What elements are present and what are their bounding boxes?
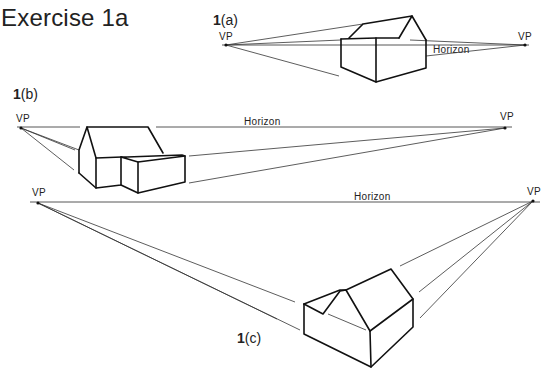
vp-point-right-1c (531, 199, 534, 202)
figure-1c-drawing (30, 199, 540, 367)
vp-point-left-1c (36, 201, 39, 204)
guide-line (21, 128, 74, 170)
guide-line (410, 40, 525, 45)
gable-edge (304, 290, 370, 331)
guide-line (419, 201, 533, 292)
guide-line (400, 201, 533, 266)
guide-line (328, 314, 366, 330)
guide-line (38, 203, 295, 302)
guide-line (189, 128, 505, 183)
guide-line (21, 128, 79, 150)
roof-edge (349, 16, 426, 40)
guide-line (189, 128, 505, 156)
vp-point-left-1b (19, 126, 22, 129)
front-corner-edge (370, 331, 371, 367)
annex-wall (121, 156, 185, 193)
guide-line (420, 201, 533, 318)
guide-line (226, 45, 339, 76)
gable-edge (87, 127, 122, 158)
guide-line (426, 45, 525, 56)
perspective-diagrams (0, 0, 545, 371)
figure-1a-drawing (222, 16, 529, 82)
roof-eave (341, 38, 399, 39)
guide-line (38, 203, 300, 330)
roof-outline (346, 269, 413, 331)
wall-outline (79, 157, 121, 188)
annex-top (121, 155, 185, 162)
roof-edge (399, 16, 412, 38)
figure-1b-drawing (17, 126, 512, 193)
vp-point-right-1b (503, 126, 506, 129)
vp-point-right-1a (523, 43, 526, 46)
wall-outline (304, 299, 413, 367)
vp-point-left-1a (224, 43, 227, 46)
